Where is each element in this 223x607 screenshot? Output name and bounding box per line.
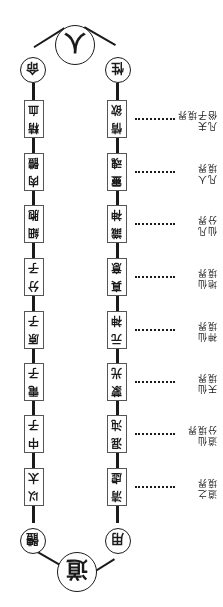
realm-label: 地仙境界	[177, 267, 217, 289]
dao-node: 道	[57, 552, 97, 592]
realm-label: 道仙分境界	[177, 424, 217, 446]
stage-box-mengguang: 蒙光	[107, 363, 127, 401]
stage-box-qingxu: 清虛	[107, 468, 127, 506]
leader-dots	[135, 223, 175, 225]
stage-box-routi: 肉體	[24, 153, 44, 191]
ti-node: 體	[20, 528, 46, 554]
stage-box-linghun: 靈魂	[107, 153, 127, 191]
leader-dots	[135, 276, 175, 278]
ming-node: 命	[20, 57, 46, 83]
leader-dots	[135, 486, 175, 488]
stage-box-shishen: 識神	[107, 205, 127, 243]
leader-dots	[135, 171, 175, 173]
stage-box-fenzi: 分子	[24, 258, 44, 296]
ren-node: 人	[55, 25, 95, 65]
realm-label: 凡人境界	[177, 162, 217, 184]
stage-box-xibao: 細胞	[24, 205, 44, 243]
yong-node: 用	[105, 528, 131, 554]
realm-label: 神仙境界	[177, 320, 217, 342]
xing-node: 性	[105, 57, 131, 83]
leader-dots	[135, 381, 175, 383]
realm-label: 仙凡分界	[177, 214, 217, 236]
left-vertical-line	[116, 83, 119, 523]
diagram-canvas: 道 用 體 人 性 命 清虛 混沌 蒙光 元神 真意 識神 靈魂 情欲 以太 中…	[0, 0, 223, 607]
realm-label: 道之境界	[177, 477, 217, 499]
realm-label: 天仙境界	[177, 372, 217, 394]
stage-box-yuanzi: 原子	[24, 311, 44, 349]
leader-dots	[135, 118, 175, 120]
stage-box-yitai: 以太	[24, 468, 44, 506]
stage-box-zhongzi: 中子	[24, 415, 44, 453]
stage-box-jingxue: 精血	[24, 100, 44, 138]
stage-box-qingyu: 情欲	[107, 100, 127, 138]
right-vertical-line	[32, 83, 35, 523]
stage-box-yuanshen: 元神	[107, 311, 127, 349]
leader-dots	[135, 329, 175, 331]
stage-box-dianzi: 電子	[24, 363, 44, 401]
leader-dots	[135, 433, 175, 435]
stage-box-zhenyi: 真意	[107, 258, 127, 296]
stage-box-hundun: 混沌	[107, 415, 127, 453]
realm-label: 凡夫俗子境界	[177, 109, 217, 131]
